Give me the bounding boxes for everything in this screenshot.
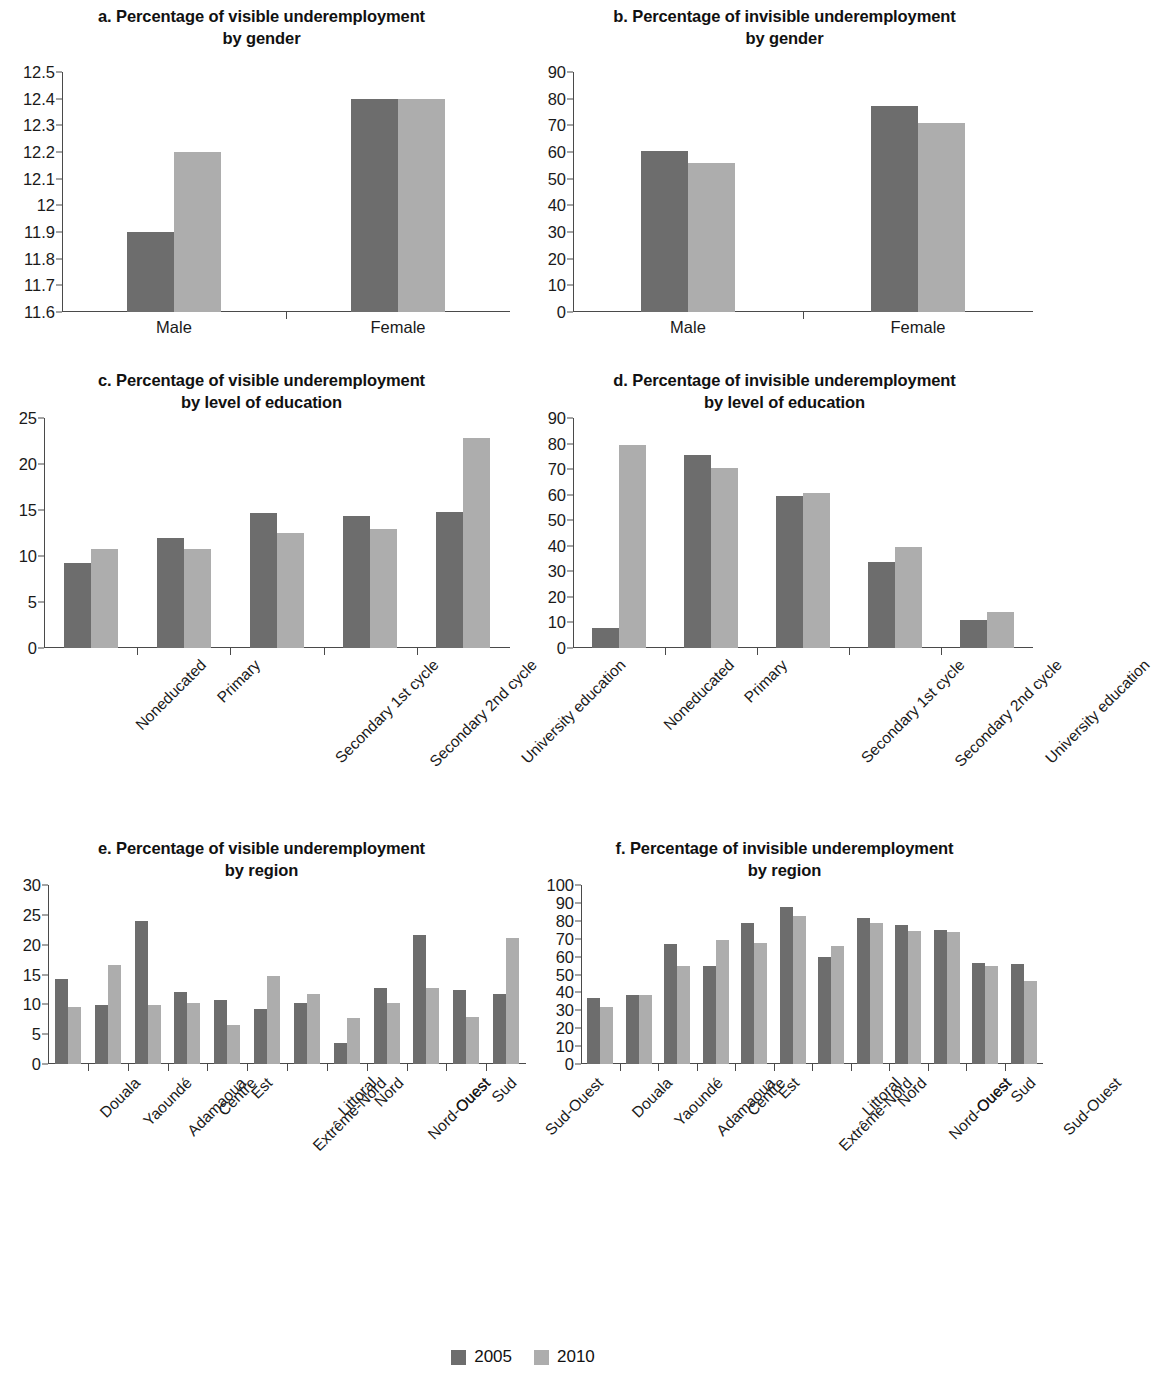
panel-row-3: e. Percentage of visible underemployment… bbox=[0, 830, 1046, 1330]
panel-f-title-line2: by region bbox=[533, 860, 1036, 882]
x-axis-category-label: Sud bbox=[488, 1074, 520, 1106]
y-axis-label: 15 bbox=[19, 501, 37, 520]
bar-2005 bbox=[135, 921, 148, 1064]
y-axis-label: 0 bbox=[32, 1055, 41, 1074]
y-axis-label: 70 bbox=[556, 929, 574, 948]
x-axis-tick bbox=[286, 312, 287, 319]
x-axis-tick bbox=[367, 1064, 368, 1071]
x-axis-tick bbox=[851, 1064, 852, 1071]
y-axis-label: 0 bbox=[28, 639, 37, 658]
bar-group bbox=[774, 885, 813, 1064]
bar-group bbox=[928, 885, 967, 1064]
bar-group bbox=[889, 885, 928, 1064]
bar-group bbox=[849, 418, 941, 648]
y-axis-label: 11.8 bbox=[24, 249, 55, 268]
y-axis-label: 20 bbox=[23, 935, 41, 954]
y-axis-label: 0 bbox=[565, 1055, 574, 1074]
y-axis-label: 12.4 bbox=[23, 89, 55, 108]
bar-2005 bbox=[436, 512, 463, 648]
bar-2005 bbox=[493, 994, 506, 1064]
bar-2005 bbox=[626, 995, 639, 1064]
y-axis-label: 60 bbox=[556, 947, 574, 966]
panel-e-title: e. Percentage of visible underemployment… bbox=[0, 830, 523, 882]
y-axis-label: 60 bbox=[548, 143, 566, 162]
bar-group bbox=[137, 418, 230, 648]
bar-group bbox=[446, 885, 486, 1064]
y-axis-label: 11.6 bbox=[24, 303, 55, 322]
x-axis-tick bbox=[207, 1064, 208, 1071]
bar-2005 bbox=[934, 930, 947, 1064]
y-axis-label: 20 bbox=[548, 249, 566, 268]
legend-label-2005: 2005 bbox=[474, 1347, 512, 1367]
y-axis-label: 12.5 bbox=[23, 63, 55, 82]
bar-group bbox=[417, 418, 510, 648]
panel-b-title: b. Percentage of invisible underemployme… bbox=[523, 0, 1046, 50]
panel-e: e. Percentage of visible underemployment… bbox=[0, 830, 523, 1330]
bar-group bbox=[735, 885, 774, 1064]
y-axis-label: 70 bbox=[548, 116, 566, 135]
bar-group bbox=[966, 885, 1005, 1064]
bar-2010 bbox=[187, 1003, 200, 1064]
bar-group bbox=[48, 885, 88, 1064]
x-axis-category-label: Sud bbox=[1007, 1074, 1039, 1106]
y-axis-label: 60 bbox=[548, 485, 566, 504]
x-axis-tick bbox=[407, 1064, 408, 1071]
panel-b-title-line1: b. Percentage of invisible underemployme… bbox=[533, 6, 1036, 28]
bar-2005 bbox=[871, 106, 918, 312]
legend-item-2005: 2005 bbox=[451, 1347, 512, 1367]
panel-f-plot: 0102030405060708090100 bbox=[581, 885, 1043, 1064]
bar-2010 bbox=[398, 99, 445, 312]
bar-2010 bbox=[600, 1007, 613, 1064]
bar-2010 bbox=[619, 445, 646, 648]
y-axis-label: 10 bbox=[556, 1037, 574, 1056]
x-axis-tick bbox=[324, 648, 325, 655]
bar-2010 bbox=[347, 1018, 360, 1064]
panel-a-title-line1: a. Percentage of visible underemployment bbox=[10, 6, 513, 28]
x-axis-tick bbox=[128, 1064, 129, 1071]
bar-2010 bbox=[688, 163, 735, 312]
bar-2010 bbox=[754, 943, 767, 1064]
panel-row-1: a. Percentage of visible underemployment… bbox=[0, 0, 1046, 360]
panel-e-plot: 051015202530 bbox=[48, 885, 526, 1064]
bar-2005 bbox=[174, 992, 187, 1064]
legend-swatch-2010 bbox=[534, 1350, 549, 1365]
bar-2005 bbox=[157, 538, 184, 648]
x-axis-category-label: Douala bbox=[96, 1074, 143, 1121]
x-axis-category-label: Male bbox=[156, 318, 192, 337]
x-axis-tick bbox=[168, 1064, 169, 1071]
x-axis-category-label: Primary bbox=[741, 656, 791, 706]
panel-f-title-line1: f. Percentage of invisible underemployme… bbox=[533, 838, 1036, 860]
bar-2005 bbox=[294, 1003, 307, 1064]
x-axis-tick bbox=[620, 1064, 621, 1071]
panel-d: d. Percentage of invisible underemployme… bbox=[523, 360, 1046, 830]
bar-2005 bbox=[1011, 964, 1024, 1064]
x-axis-tick bbox=[88, 1064, 89, 1071]
bar-group bbox=[128, 885, 168, 1064]
y-axis-label: 20 bbox=[19, 455, 37, 474]
y-axis-label: 30 bbox=[548, 223, 566, 242]
bar-group bbox=[658, 885, 697, 1064]
bar-2005 bbox=[95, 1005, 108, 1064]
y-axis-label: 25 bbox=[23, 905, 41, 924]
bar-2005 bbox=[250, 513, 277, 648]
panel-d-title-line2: by level of education bbox=[533, 392, 1036, 414]
y-axis-label: 10 bbox=[19, 547, 37, 566]
bar-2005 bbox=[64, 563, 91, 648]
bar-group bbox=[44, 418, 137, 648]
bar-group bbox=[88, 885, 128, 1064]
bar-2010 bbox=[803, 493, 830, 648]
x-axis-tick bbox=[658, 1064, 659, 1071]
bar-group bbox=[286, 72, 510, 312]
y-axis-label: 90 bbox=[548, 409, 566, 428]
x-axis-tick bbox=[137, 648, 138, 655]
bar-2010 bbox=[466, 1017, 479, 1064]
bar-2010 bbox=[148, 1005, 161, 1064]
bar-group bbox=[367, 885, 407, 1064]
bar-group bbox=[62, 72, 286, 312]
y-axis-label: 30 bbox=[556, 1001, 574, 1020]
y-axis-label: 10 bbox=[548, 613, 566, 632]
panel-e-title-line1: e. Percentage of visible underemployment bbox=[10, 838, 513, 860]
bar-group bbox=[941, 418, 1033, 648]
bar-2010 bbox=[277, 533, 304, 648]
